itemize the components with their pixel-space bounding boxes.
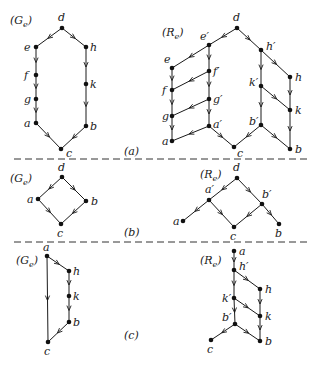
graphs: (Ge)dehfkgabc(Re)de′h′ef′fhk′g′kgb′a′acb… [10, 11, 302, 358]
node-h1 [232, 268, 237, 273]
node-label: k [265, 310, 272, 323]
node-label: h [295, 71, 302, 84]
node-k [258, 314, 263, 319]
graph-re: (Re)de′h′ef′fhk′g′kgb′a′acb [161, 11, 302, 160]
node-h [258, 287, 263, 292]
node-h [84, 45, 89, 50]
node-a [34, 121, 39, 126]
node-b [84, 199, 89, 204]
node-a1 [207, 124, 212, 129]
graph-label: (Re) [200, 168, 222, 183]
edge-d-h [62, 28, 86, 47]
node-label: d [233, 11, 240, 24]
edge-d-e1 [209, 28, 237, 45]
node-label: k [73, 290, 80, 303]
panel-captions: (a)(b)(c) [124, 145, 140, 342]
edge-d-b1 [237, 178, 262, 204]
panel-c: (Ge)ahkbc(Re)ah′hk′kb′cb [16, 241, 272, 358]
node-c [59, 222, 64, 227]
graph-label: (Ge) [10, 14, 32, 29]
edge-d-e [36, 28, 62, 47]
edge-b1-c [211, 324, 235, 340]
node-label: d [58, 161, 65, 174]
graph-re: (Re)da′b′acb [173, 161, 282, 243]
node-g1 [207, 97, 212, 102]
node-label: k [295, 104, 302, 117]
node-f [34, 73, 39, 78]
edge-b1-b [261, 125, 290, 149]
node-d [235, 176, 240, 181]
node-label: b [265, 335, 272, 348]
graph-ge: (Ge)dehfkgabc [10, 11, 97, 160]
node-label: h′ [239, 260, 249, 273]
edge-b1-b [235, 324, 260, 341]
node-label: a [27, 193, 34, 206]
node-label: c [44, 345, 50, 358]
node-c [46, 340, 51, 345]
node-label: h [73, 265, 80, 278]
edge-a-h [47, 256, 69, 271]
node-f [170, 88, 175, 93]
node-label: a′ [213, 118, 223, 131]
edge-b1-b [262, 204, 279, 224]
panel-caption: (a) [124, 145, 139, 158]
edge-b-c [61, 201, 86, 224]
edge-e1-e [172, 45, 209, 68]
panel-b: (Ge)dabc(Re)da′b′acb [10, 161, 282, 243]
graph-ge: (Ge)ahkbc [16, 241, 80, 358]
panel-a: (Ge)dehfkgabc(Re)de′h′ef′fhk′g′kgb′a′acb [10, 11, 302, 160]
node-label: d [58, 11, 65, 24]
edge-d-a [38, 177, 62, 199]
node-e [34, 45, 39, 50]
node-b [67, 320, 72, 325]
node-a [170, 139, 175, 144]
node-label: a [24, 117, 31, 130]
edge-a1-a [172, 126, 209, 141]
node-label: c [57, 227, 63, 240]
node-label: e′ [200, 30, 210, 43]
node-b [277, 222, 282, 227]
node-label: b′ [249, 115, 259, 128]
graph-re: (Re)ah′hk′kb′cb [200, 245, 272, 356]
node-label: a [173, 215, 180, 228]
node-c [232, 145, 237, 150]
node-c [209, 338, 214, 343]
node-label: b′ [222, 311, 232, 324]
node-label: f [23, 69, 30, 82]
node-label: h [90, 41, 97, 54]
edge-a1-c [209, 200, 234, 227]
node-label: a′ [205, 183, 215, 196]
node-k1 [259, 84, 264, 89]
node-label: c [237, 147, 243, 160]
node-label: c [230, 230, 236, 243]
edge-a-c [38, 199, 61, 224]
node-b1 [260, 202, 265, 207]
node-d [60, 26, 65, 31]
edge-b1-c [234, 204, 262, 227]
node-f1 [207, 69, 212, 74]
node-g [170, 114, 175, 119]
node-b [84, 124, 89, 129]
node-label: c [207, 343, 213, 356]
graph-label: (Ge) [16, 254, 38, 269]
node-label: c [66, 147, 72, 160]
node-label: g′ [213, 93, 223, 106]
node-label: f [161, 84, 168, 97]
node-e1 [207, 43, 212, 48]
node-label: b′ [262, 188, 272, 201]
node-c [232, 225, 237, 230]
edge-d-h1 [237, 28, 261, 50]
node-h1 [259, 48, 264, 53]
node-k [288, 108, 293, 113]
edge-b-c [61, 126, 86, 149]
node-label: a [43, 241, 50, 254]
panel-caption: (c) [124, 329, 139, 342]
node-k1 [232, 296, 237, 301]
node-b [288, 147, 293, 152]
node-a1 [207, 198, 212, 203]
node-b [258, 339, 263, 344]
node-d [235, 26, 240, 31]
edge-g1-g [172, 99, 209, 116]
node-label: g [162, 110, 169, 123]
node-h [67, 269, 72, 274]
